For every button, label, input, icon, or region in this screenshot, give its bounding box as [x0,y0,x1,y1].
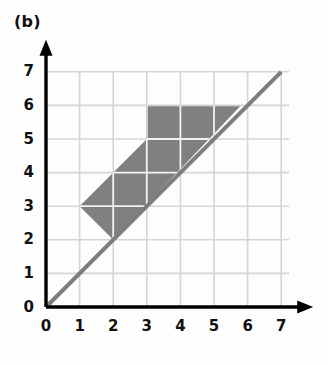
y-axis-tick-labels: 12345670 [24,62,34,315]
x-axis-arrowhead [297,301,313,314]
x-tick-label-3: 3 [142,317,152,335]
y-tick-label-4: 4 [24,163,34,181]
y-tick-label-6: 6 [24,96,34,114]
y-axis-arrowhead [40,40,53,56]
y-tick-label-2: 2 [24,230,34,248]
x-tick-label-5: 5 [209,317,219,335]
coordinate-plane-plot: 01234567 12345670 [0,0,328,365]
origin-label: 0 [24,298,34,316]
x-tick-label-1: 1 [74,317,84,335]
x-tick-label-6: 6 [242,317,252,335]
y-tick-label-5: 5 [24,130,34,148]
x-tick-label-2: 2 [108,317,118,335]
x-tick-label-0: 0 [41,317,51,335]
x-tick-label-4: 4 [175,317,185,335]
x-tick-label-7: 7 [276,317,286,335]
y-tick-label-7: 7 [24,62,34,80]
y-tick-label-3: 3 [24,197,34,215]
figure-panel-b: (b) 01234567 12345670 [0,0,328,365]
x-axis-tick-labels: 01234567 [41,317,287,335]
y-tick-label-1: 1 [24,264,34,282]
